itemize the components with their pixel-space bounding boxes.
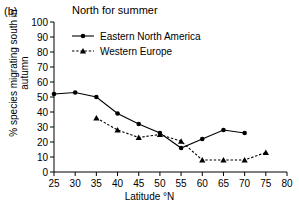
data-point bbox=[220, 157, 226, 163]
x-tick-label: 50 bbox=[154, 178, 166, 189]
x-tick-label: 35 bbox=[91, 178, 103, 189]
x-tick-label: 25 bbox=[48, 178, 60, 189]
series-line-0 bbox=[54, 93, 245, 149]
y-tick-label: 0 bbox=[42, 167, 48, 178]
data-point bbox=[263, 149, 269, 155]
figure-panel-b: (b) North for summer % species migrating… bbox=[0, 0, 299, 203]
y-tick-label: 70 bbox=[37, 62, 49, 73]
data-point bbox=[114, 127, 120, 133]
x-tick-label: 65 bbox=[218, 178, 230, 189]
y-tick-label: 90 bbox=[37, 32, 49, 43]
y-tick-label: 10 bbox=[37, 152, 49, 163]
y-tick-label: 80 bbox=[37, 47, 49, 58]
data-point bbox=[93, 115, 99, 121]
legend-label-1: Western Europe bbox=[100, 46, 173, 57]
data-point bbox=[179, 146, 184, 151]
data-point bbox=[200, 137, 205, 142]
legend-marker-circle-icon bbox=[81, 34, 86, 39]
data-point bbox=[52, 92, 57, 97]
data-point bbox=[73, 90, 78, 95]
data-point bbox=[221, 128, 226, 133]
data-point bbox=[136, 134, 142, 140]
x-tick-label: 70 bbox=[239, 178, 251, 189]
data-point bbox=[136, 122, 141, 127]
data-point bbox=[94, 95, 99, 100]
y-tick-label: 60 bbox=[37, 77, 49, 88]
x-tick-label: 80 bbox=[281, 178, 293, 189]
y-tick-label: 50 bbox=[37, 92, 49, 103]
legend-label-0: Eastern North America bbox=[100, 31, 201, 42]
x-tick-label: 55 bbox=[176, 178, 188, 189]
data-point bbox=[115, 111, 120, 116]
x-tick-label: 40 bbox=[112, 178, 124, 189]
y-tick-label: 100 bbox=[31, 17, 48, 28]
y-tick-label: 20 bbox=[37, 137, 49, 148]
x-tick-label: 75 bbox=[260, 178, 272, 189]
x-tick-label: 45 bbox=[133, 178, 145, 189]
data-point bbox=[242, 131, 247, 136]
x-tick-label: 30 bbox=[70, 178, 82, 189]
data-point bbox=[242, 157, 248, 163]
y-tick-label: 40 bbox=[37, 107, 49, 118]
y-tick-label: 30 bbox=[37, 122, 49, 133]
x-tick-label: 60 bbox=[197, 178, 209, 189]
plot-area: 0102030405060708090100253035404550556065… bbox=[0, 0, 299, 203]
